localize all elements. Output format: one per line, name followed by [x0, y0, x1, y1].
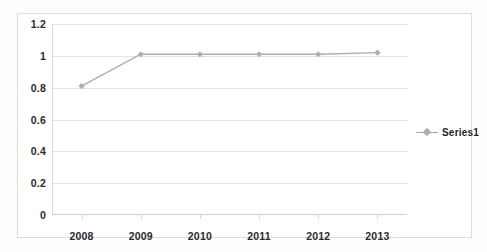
- series1-markers: [78, 50, 380, 90]
- x-tick-mark: [377, 215, 378, 219]
- x-tick-mark: [141, 215, 142, 219]
- series1-data-point: [197, 51, 203, 57]
- legend-diamond-icon: [423, 127, 431, 135]
- x-tick-mark: [82, 215, 83, 219]
- x-tick-label: 2013: [365, 230, 389, 242]
- y-tick-label: 0: [40, 209, 46, 221]
- y-axis-labels: 1.2 1 0.8 0.6 0.4 0.2 0: [18, 24, 46, 215]
- x-tick-label: 2012: [306, 230, 330, 242]
- x-tick-label: 2011: [247, 230, 271, 242]
- series1-data-point: [374, 50, 380, 56]
- x-tick-label: 2009: [129, 230, 153, 242]
- legend-marker-icon: [416, 128, 438, 138]
- legend-label-series1: Series1: [442, 127, 479, 138]
- chart-legend[interactable]: Series1: [416, 127, 479, 138]
- x-tick-label: 2010: [188, 230, 212, 242]
- series1-data-point: [315, 51, 321, 57]
- plot-area: 2008 2009 2010 2011 2012 2013: [52, 24, 407, 215]
- series1-data-point: [138, 51, 144, 57]
- y-tick-label: 0.4: [31, 145, 46, 157]
- x-tick-label: 2008: [69, 230, 93, 242]
- x-tick-mark: [259, 215, 260, 219]
- x-tick-mark: [200, 215, 201, 219]
- chart-area: 1.2 1 0.8 0.6 0.4 0.2 0 2008 2009 2010 2…: [17, 13, 472, 238]
- series1-data-point: [78, 83, 84, 89]
- y-tick-label: 0.2: [31, 177, 46, 189]
- series1-plot: [52, 24, 407, 215]
- x-tick-mark: [318, 215, 319, 219]
- series1-data-point: [256, 51, 262, 57]
- y-tick-label: 1: [40, 50, 46, 62]
- series1-line: [82, 53, 378, 86]
- y-tick-label: 0.6: [31, 114, 46, 126]
- y-tick-label: 0.8: [31, 82, 46, 94]
- y-tick-label: 1.2: [31, 18, 46, 30]
